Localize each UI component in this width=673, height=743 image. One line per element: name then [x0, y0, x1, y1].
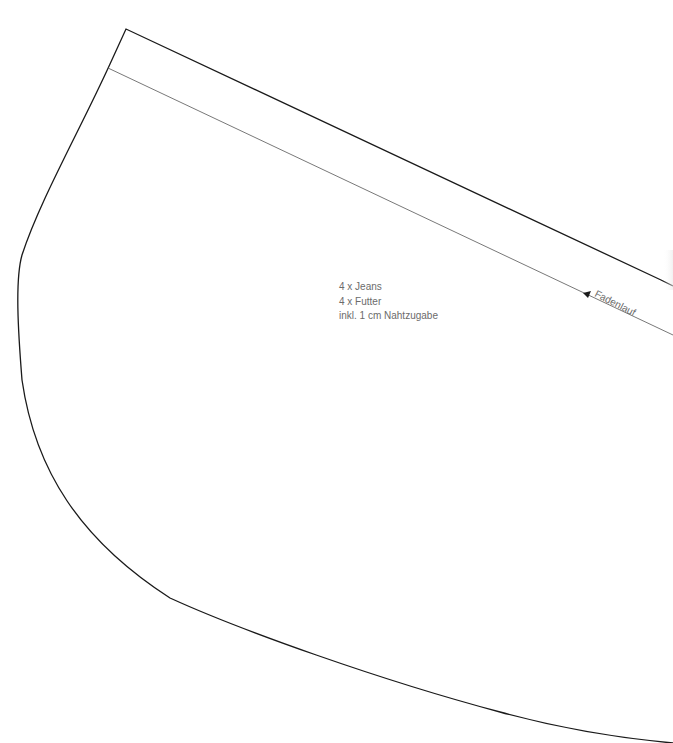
cut-instructions: 4 x Jeans 4 x Futter inkl. 1 cm Nahtzuga…: [339, 280, 438, 324]
cut-line-futter: 4 x Futter: [339, 295, 438, 310]
pattern-piece: [0, 0, 673, 743]
seam-allowance-note: inkl. 1 cm Nahtzugabe: [339, 309, 438, 324]
cut-line-jeans: 4 x Jeans: [339, 280, 438, 295]
pattern-outline: [18, 29, 673, 743]
grainline-arrow-icon: [583, 291, 591, 298]
